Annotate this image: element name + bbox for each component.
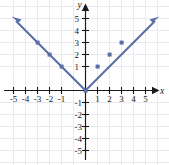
y-tick-label-4: 4	[75, 26, 80, 36]
y-tick-label--5: -5	[75, 146, 83, 156]
x-axis-label: x	[159, 86, 165, 96]
x-tick-label-3: 3	[119, 94, 124, 104]
x-tick-label--3: -3	[34, 94, 42, 104]
coordinate-plane: -5 -4 -3 -2 -1 1 2 3 4 5 5 4 3 2 1 -1 -2…	[0, 0, 169, 165]
y-tick-label-3: 3	[75, 38, 80, 48]
data-point-marker	[60, 65, 64, 69]
graph-figure: -5 -4 -3 -2 -1 1 2 3 4 5 5 4 3 2 1 -1 -2…	[0, 0, 169, 165]
data-point-marker	[108, 53, 112, 57]
x-tick-label--5: -5	[10, 94, 18, 104]
data-point-marker	[36, 41, 40, 45]
x-tick-label-1: 1	[95, 94, 100, 104]
data-point-marker	[96, 65, 100, 69]
data-point-marker	[48, 53, 52, 57]
y-tick-label-2: 2	[75, 50, 80, 60]
y-tick-label--3: -3	[75, 122, 83, 132]
y-tick-label--2: -2	[75, 110, 83, 120]
y-tick-label-5: 5	[75, 14, 80, 24]
x-tick-label--2: -2	[46, 94, 54, 104]
y-tick-label--4: -4	[75, 134, 83, 144]
y-tick-label--1: -1	[75, 98, 83, 108]
x-tick-label-2: 2	[107, 94, 112, 104]
y-tick-label-1: 1	[75, 62, 80, 72]
y-axis-label: y	[76, 0, 82, 10]
x-tick-label--4: -4	[22, 94, 30, 104]
data-point-marker	[84, 89, 88, 93]
x-tick-label--1: -1	[58, 94, 66, 104]
data-point-marker	[120, 41, 124, 45]
x-tick-label-4: 4	[131, 94, 136, 104]
x-tick-label-5: 5	[143, 94, 148, 104]
